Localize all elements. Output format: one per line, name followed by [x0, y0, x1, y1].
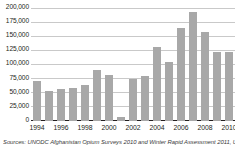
- x-axis: 199419961998200020022004200620082010: [31, 121, 235, 134]
- y-axis-tick-label: 175,000: [0, 18, 29, 25]
- bar-2007: [189, 12, 197, 121]
- y-axis-tick-label: 125,000: [0, 46, 29, 53]
- y-axis-tick-label: 200,000: [0, 4, 29, 11]
- x-axis-tick-label: 2006: [170, 124, 192, 132]
- bar-1998: [81, 85, 89, 121]
- x-axis-tick-label: 1994: [26, 124, 48, 132]
- bar-2004: [153, 47, 161, 121]
- bar-2009: [213, 52, 221, 122]
- source-note: Sources: UNODC Afghanistan Opium Surveys…: [3, 139, 235, 146]
- y-axis: 025,00050,00075,000100,000125,000150,000…: [0, 0, 30, 134]
- y-axis-tick-label: 75,000: [0, 75, 29, 82]
- y-axis-tick-label: 100,000: [0, 60, 29, 67]
- bar-2002: [129, 79, 137, 121]
- bar-2000: [105, 75, 113, 121]
- y-axis-tick-label: 0: [0, 117, 29, 124]
- x-axis-tick-label: 2002: [122, 124, 144, 132]
- bar-series: [31, 0, 235, 121]
- x-axis-tick-label: 2000: [98, 124, 120, 132]
- plot-area: 025,00050,00075,000100,000125,000150,000…: [0, 0, 235, 134]
- bar-1997: [69, 88, 77, 121]
- bar-2006: [177, 28, 185, 121]
- x-axis-tick-label: 1996: [50, 124, 72, 132]
- x-axis-tick-label: 1998: [74, 124, 96, 132]
- y-axis-tick-label: 50,000: [0, 89, 29, 96]
- opium-cultivation-bar-chart: 025,00050,00075,000100,000125,000150,000…: [0, 0, 235, 152]
- grid-and-bars: [31, 0, 235, 134]
- bar-2005: [165, 62, 173, 121]
- bar-2008: [201, 32, 209, 121]
- x-axis-tick-label: 2008: [194, 124, 216, 132]
- bar-1995: [45, 91, 53, 121]
- bar-1999: [93, 70, 101, 121]
- bar-1994: [33, 81, 41, 121]
- bar-2003: [141, 76, 149, 121]
- x-axis-tick-label: 2004: [146, 124, 168, 132]
- y-axis-tick-label: 25,000: [0, 103, 29, 110]
- y-axis-tick-label: 150,000: [0, 32, 29, 39]
- x-axis-tick-label: 2010: [218, 124, 235, 132]
- bar-1996: [57, 89, 65, 121]
- bar-2010: [225, 52, 233, 122]
